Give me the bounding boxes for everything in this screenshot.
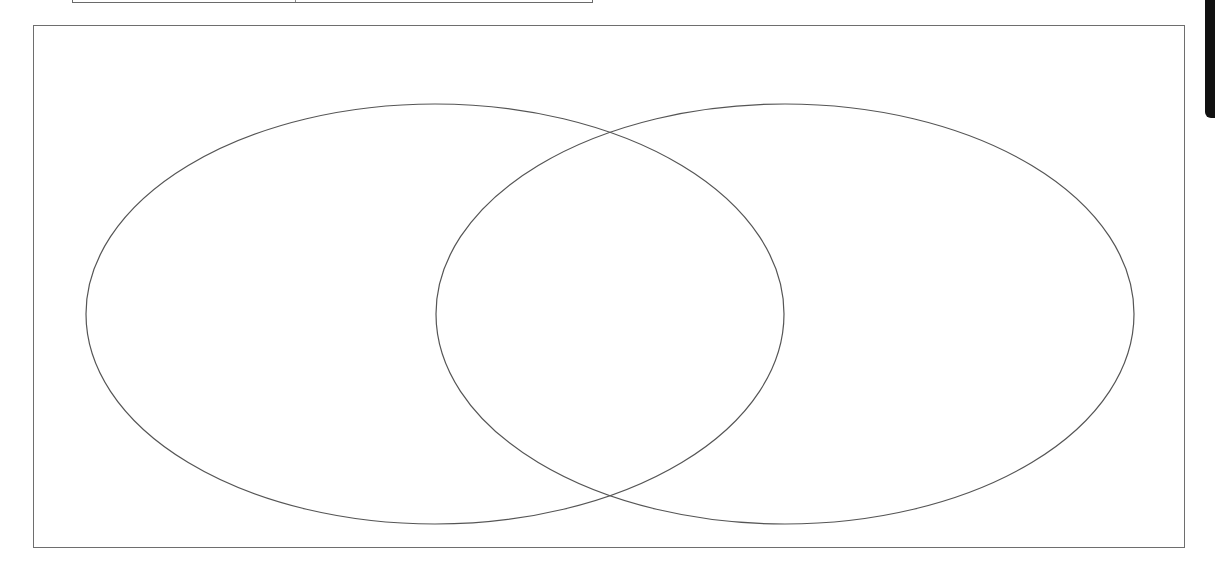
- left-set-ellipse[interactable]: [86, 104, 784, 524]
- side-panel-tab[interactable]: [1205, 0, 1215, 118]
- right-set-ellipse[interactable]: [436, 104, 1134, 524]
